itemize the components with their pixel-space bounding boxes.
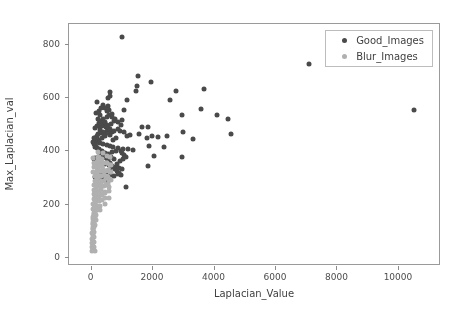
- data-point: [180, 112, 185, 117]
- y-axis-tick: [65, 150, 69, 151]
- data-point: [91, 155, 96, 160]
- x-axis-tick-label: 4000: [202, 272, 225, 282]
- x-axis-tick: [214, 266, 215, 270]
- data-point: [180, 154, 185, 159]
- data-point: [161, 145, 166, 150]
- data-point: [92, 178, 97, 183]
- data-point: [92, 136, 97, 141]
- data-point: [93, 222, 98, 227]
- data-point: [90, 206, 95, 211]
- data-point: [191, 137, 196, 142]
- data-point: [167, 98, 172, 103]
- legend-label-good-images: Good_Images: [356, 35, 424, 46]
- legend-marker-icon-blur-images: [342, 54, 347, 59]
- x-axis-tick-label: 10000: [384, 272, 413, 282]
- y-axis-tick: [65, 97, 69, 98]
- x-axis-tick-label: 6000: [264, 272, 287, 282]
- x-axis-tick-label: 2000: [141, 272, 164, 282]
- data-point: [124, 98, 129, 103]
- data-point: [91, 170, 96, 175]
- data-point: [90, 231, 95, 236]
- data-point: [181, 129, 186, 134]
- y-axis-tick-label: 400: [43, 145, 60, 155]
- x-axis-tick: [336, 266, 337, 270]
- data-point: [103, 202, 108, 207]
- data-point: [139, 124, 144, 129]
- data-point: [91, 202, 96, 207]
- data-point: [108, 126, 113, 131]
- data-point: [90, 240, 95, 245]
- data-point: [226, 116, 231, 121]
- x-axis-tick: [152, 266, 153, 270]
- legend-entry-blur-images: Blur_Images: [332, 51, 424, 62]
- data-point: [150, 134, 155, 139]
- data-point: [114, 161, 119, 166]
- data-point: [92, 192, 97, 197]
- data-point: [116, 171, 121, 176]
- legend: Good_Images Blur_Images: [325, 30, 433, 67]
- data-point: [121, 108, 126, 113]
- data-point: [109, 177, 114, 182]
- data-point: [119, 123, 124, 128]
- y-axis-title: Max_Laplacian_val: [4, 97, 15, 190]
- data-point: [148, 79, 153, 84]
- data-point: [105, 95, 110, 100]
- x-axis-tick: [398, 266, 399, 270]
- data-point: [198, 106, 203, 111]
- data-point: [93, 217, 98, 222]
- data-point: [91, 165, 96, 170]
- data-point: [146, 143, 151, 148]
- x-axis-tick: [275, 266, 276, 270]
- data-point: [411, 108, 416, 113]
- data-point: [92, 160, 97, 165]
- y-axis-tick-label: 200: [43, 199, 60, 209]
- data-point: [130, 147, 135, 152]
- x-axis-title: Laplacian_Value: [68, 288, 440, 299]
- data-point: [215, 113, 220, 118]
- legend-entry-good-images: Good_Images: [332, 35, 424, 46]
- y-axis-tick-label: 0: [54, 252, 60, 262]
- x-axis-tick-label: 0: [88, 272, 94, 282]
- y-axis-tick: [65, 204, 69, 205]
- x-axis-tick: [91, 266, 92, 270]
- data-point: [173, 88, 178, 93]
- legend-label-blur-images: Blur_Images: [356, 51, 418, 62]
- data-point: [89, 245, 94, 250]
- data-point: [307, 61, 312, 66]
- data-point: [146, 125, 151, 130]
- scatter-plot-figure: 02000400060008000100000200400600800 Good…: [0, 0, 461, 323]
- data-point: [151, 154, 156, 159]
- data-point: [228, 131, 233, 136]
- data-point: [92, 183, 97, 188]
- data-point: [108, 162, 113, 167]
- y-axis-tick-label: 800: [43, 39, 60, 49]
- data-point: [164, 134, 169, 139]
- data-point: [106, 195, 111, 200]
- data-point: [137, 131, 142, 136]
- y-axis-tick: [65, 44, 69, 45]
- data-point: [125, 134, 130, 139]
- data-point: [107, 185, 112, 190]
- legend-marker-icon-good-images: [342, 38, 347, 43]
- data-point: [94, 100, 99, 105]
- x-axis-tick-label: 8000: [325, 272, 348, 282]
- data-point: [146, 163, 151, 168]
- data-point: [90, 140, 95, 145]
- data-point: [134, 89, 139, 94]
- data-point: [202, 87, 207, 92]
- data-point: [145, 135, 150, 140]
- data-point: [136, 74, 141, 79]
- data-point: [108, 155, 113, 160]
- y-axis-tick-label: 600: [43, 92, 60, 102]
- plot-area: 02000400060008000100000200400600800 Good…: [68, 23, 440, 265]
- data-point: [108, 170, 113, 175]
- data-point: [123, 185, 128, 190]
- data-point: [94, 213, 99, 218]
- data-point: [156, 135, 161, 140]
- data-point: [119, 35, 124, 40]
- data-point: [100, 197, 105, 202]
- data-point: [91, 197, 96, 202]
- data-point: [110, 137, 115, 142]
- y-axis-tick: [65, 257, 69, 258]
